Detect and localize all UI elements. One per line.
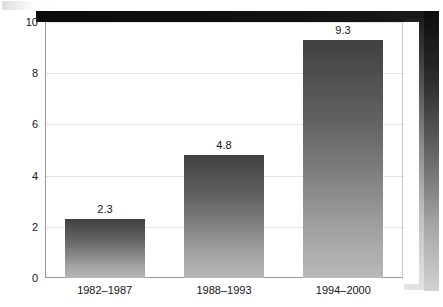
scan-noise-artifact: [2, 1, 54, 10]
bar[interactable]: [65, 219, 145, 278]
plot-right-border: [402, 22, 403, 279]
bar-chart-figure: 0246810 2.34.89.3 1982–19871988–19931994…: [0, 0, 443, 307]
y-axis-tick-label: 4: [8, 170, 38, 181]
bar[interactable]: [303, 40, 383, 278]
scan-right-shadow-inner: [424, 11, 439, 291]
bar-value-label: 9.3: [303, 25, 383, 36]
bar-value-label: 2.3: [65, 204, 145, 215]
y-axis-tick-label: 2: [8, 221, 38, 232]
gridline: [46, 22, 404, 23]
bar-value-label: 4.8: [184, 140, 264, 151]
y-axis-tick-label: 6: [8, 119, 38, 130]
y-axis-tick-label: 0: [8, 273, 38, 284]
x-axis-tick-label: 1988–1993: [164, 285, 284, 296]
x-axis-tick-label: 1994–2000: [283, 285, 403, 296]
x-axis-tick-label: 1982–1987: [45, 285, 165, 296]
y-axis-tick-label: 10: [8, 17, 38, 28]
y-axis-tick-label: 8: [8, 68, 38, 79]
scan-top-shadow-band: [36, 11, 439, 22]
y-axis-tick-labels: 0246810: [0, 22, 38, 278]
bar[interactable]: [184, 155, 264, 278]
scan-page-margin: [404, 22, 419, 284]
